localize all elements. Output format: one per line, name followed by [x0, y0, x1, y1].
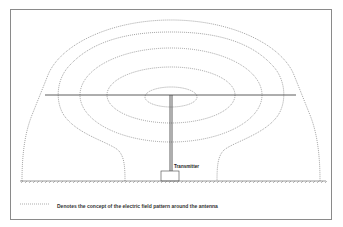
diagram-canvas	[0, 0, 343, 227]
field-line-4	[58, 32, 284, 181]
transmitter-box	[161, 171, 179, 181]
field-line-1	[145, 87, 197, 107]
legend-text: Denotes the concept of the electric fiel…	[57, 203, 218, 209]
transmitter-label: Transmitter	[174, 164, 199, 169]
field-line-5	[22, 20, 320, 181]
